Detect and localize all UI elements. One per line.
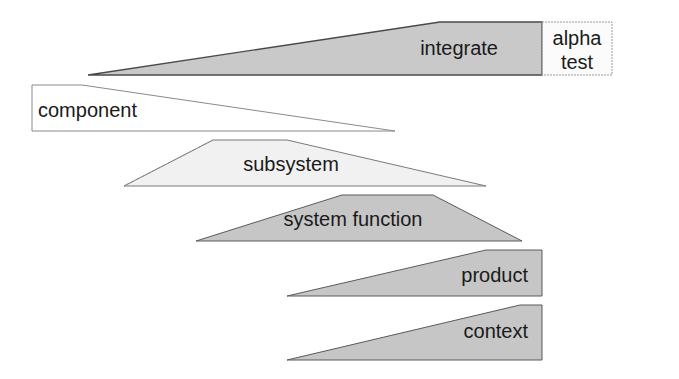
- alpha-test-label-line1: alpha: [553, 27, 603, 49]
- product-shape: product: [287, 250, 542, 296]
- integrate-label: integrate: [420, 37, 498, 59]
- context-label: context: [464, 320, 529, 342]
- system-function-shape: system function: [196, 195, 522, 241]
- integration-diagram: integrate alpha test component subsystem…: [0, 0, 679, 379]
- subsystem-shape: subsystem: [124, 140, 486, 186]
- component-shape: component: [32, 85, 395, 131]
- system-function-label: system function: [284, 208, 423, 230]
- component-label: component: [38, 99, 137, 121]
- integrate-shape: integrate: [88, 22, 542, 75]
- subsystem-label: subsystem: [243, 153, 339, 175]
- context-shape: context: [287, 305, 542, 360]
- product-label: product: [461, 264, 528, 286]
- alpha-test-shape: alpha test: [542, 22, 612, 75]
- alpha-test-label-line2: test: [561, 51, 594, 73]
